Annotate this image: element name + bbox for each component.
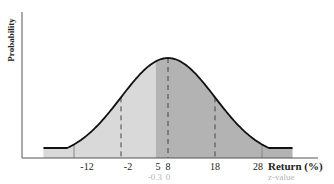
shaded-area bbox=[22, 0, 320, 184]
x-tick-label: 28 bbox=[253, 161, 263, 172]
shaded-region-below-5 bbox=[22, 0, 156, 184]
x-tick-label: -2 bbox=[124, 161, 132, 172]
shaded-region-above-5 bbox=[156, 0, 320, 184]
z-axis-label: z-value bbox=[268, 172, 294, 182]
z-tick-label: -0.3 bbox=[148, 172, 162, 182]
y-axis-label: Probability bbox=[3, 12, 19, 68]
x-axis-label: Return (%) bbox=[268, 160, 323, 172]
x-tick-label: 18 bbox=[210, 161, 220, 172]
normal-distribution-chart bbox=[0, 0, 334, 184]
x-tick-label: -12 bbox=[80, 161, 93, 172]
x-tick-label: 5 bbox=[156, 161, 161, 172]
z-tick-label: 0 bbox=[166, 172, 171, 182]
x-tick-label: 8 bbox=[166, 161, 171, 172]
